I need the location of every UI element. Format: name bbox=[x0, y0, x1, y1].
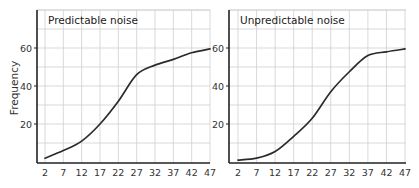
chart-panel-unpredictable: 204060271217222732374247Unpredictable no… bbox=[212, 10, 411, 178]
x-tick-label: 2 bbox=[42, 167, 48, 178]
x-tick-label: 47 bbox=[399, 167, 411, 178]
x-tick-label: 17 bbox=[288, 167, 300, 178]
panel-title: Predictable noise bbox=[48, 14, 138, 26]
x-tick-label: 7 bbox=[60, 167, 66, 178]
x-tick-label: 42 bbox=[380, 167, 392, 178]
x-tick-label: 37 bbox=[362, 167, 374, 178]
x-tick-label: 22 bbox=[112, 167, 124, 178]
y-axis-label: Frequency bbox=[8, 61, 20, 115]
x-tick-label: 12 bbox=[76, 167, 88, 178]
x-tick-label: 2 bbox=[235, 167, 241, 178]
y-tick-label: 20 bbox=[20, 119, 32, 130]
series-line bbox=[238, 49, 405, 160]
x-tick-label: 32 bbox=[149, 167, 161, 178]
x-tick-label: 42 bbox=[186, 167, 198, 178]
y-tick-label: 60 bbox=[20, 43, 32, 54]
x-tick-label: 32 bbox=[343, 167, 355, 178]
series-line bbox=[45, 49, 210, 158]
x-tick-label: 22 bbox=[306, 167, 318, 178]
y-tick-label: 40 bbox=[212, 81, 224, 92]
y-tick-label: 40 bbox=[20, 81, 32, 92]
panel-title: Unpredictable noise bbox=[240, 14, 345, 26]
chart-panel-predictable: 204060271217222732374247Predictable nois… bbox=[20, 10, 216, 178]
y-tick-label: 60 bbox=[212, 43, 224, 54]
x-tick-label: 7 bbox=[254, 167, 260, 178]
x-tick-label: 37 bbox=[167, 167, 179, 178]
x-tick-label: 27 bbox=[325, 167, 337, 178]
chart-canvas: 204060271217222732374247Predictable nois… bbox=[0, 0, 419, 188]
x-tick-label: 47 bbox=[204, 167, 216, 178]
y-tick-label: 20 bbox=[212, 119, 224, 130]
x-tick-label: 17 bbox=[94, 167, 106, 178]
x-tick-label: 27 bbox=[131, 167, 143, 178]
x-tick-label: 12 bbox=[269, 167, 281, 178]
